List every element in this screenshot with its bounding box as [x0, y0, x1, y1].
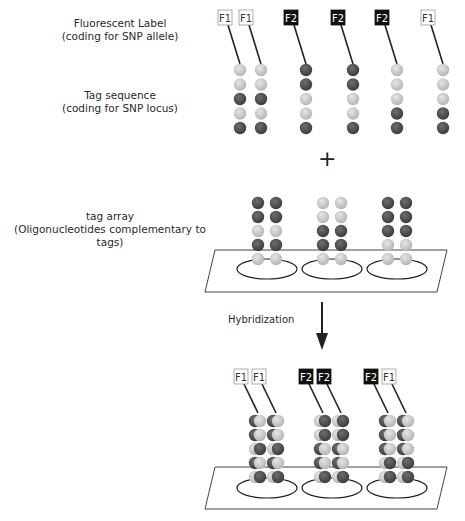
fluor-label-f2: F2	[317, 369, 331, 384]
dark-bead	[382, 197, 394, 209]
light-bead	[254, 457, 266, 469]
probe-strand: F2	[284, 10, 312, 134]
light-bead	[384, 415, 396, 427]
dark-bead	[300, 122, 312, 134]
dark-bead	[437, 122, 449, 134]
light-bead	[254, 429, 266, 441]
dark-bead	[335, 239, 347, 251]
hybridized-spot-group: F1F1	[234, 369, 297, 498]
dark-bead	[317, 239, 329, 251]
dark-bead	[254, 471, 266, 483]
light-bead	[337, 443, 349, 455]
dark-bead	[400, 197, 412, 209]
light-bead	[335, 211, 347, 223]
light-bead	[382, 253, 394, 265]
hybridized-spot-group: F2F2	[299, 369, 362, 498]
svg-text:F1: F1	[240, 13, 252, 24]
dark-bead	[255, 122, 267, 134]
dark-bead	[254, 443, 266, 455]
fluor-label-f1: F1	[234, 369, 248, 384]
dark-bead	[319, 429, 331, 441]
light-bead	[347, 107, 359, 119]
hybridized-array-slide: F1F1F2F2F2F1	[205, 369, 447, 509]
svg-text:F1: F1	[253, 372, 265, 383]
dark-bead	[234, 93, 246, 105]
light-bead	[234, 64, 246, 76]
svg-text:F2: F2	[300, 372, 312, 383]
array-spot	[367, 478, 427, 498]
dark-bead	[347, 78, 359, 90]
array-spot	[237, 478, 297, 498]
dark-bead	[391, 107, 403, 119]
dark-bead	[270, 239, 282, 251]
fluor-label-f1: F1	[421, 10, 435, 25]
light-bead	[402, 443, 414, 455]
dark-bead	[347, 64, 359, 76]
fluor-label-f1: F1	[239, 10, 253, 25]
light-bead	[252, 225, 264, 237]
light-bead	[270, 253, 282, 265]
dark-bead	[402, 471, 414, 483]
light-bead	[384, 443, 396, 455]
hybridization-arrow-icon	[316, 302, 328, 350]
dark-bead	[391, 122, 403, 134]
light-bead	[437, 93, 449, 105]
dark-bead	[300, 64, 312, 76]
array-spot	[302, 259, 362, 279]
light-bead	[400, 253, 412, 265]
probe-strand: F2	[375, 10, 403, 134]
light-bead	[402, 415, 414, 427]
dark-bead	[272, 471, 284, 483]
fluor-label-f2: F2	[375, 10, 389, 25]
dark-bead	[347, 122, 359, 134]
probe-strand: F2	[331, 10, 359, 134]
dark-bead	[319, 415, 331, 427]
svg-text:F2: F2	[376, 13, 388, 24]
light-bead	[391, 93, 403, 105]
light-bead	[317, 253, 329, 265]
light-bead	[272, 429, 284, 441]
light-bead	[337, 457, 349, 469]
light-bead	[347, 93, 359, 105]
dark-bead	[335, 225, 347, 237]
dark-bead	[252, 211, 264, 223]
array-spot	[302, 478, 362, 498]
light-bead	[317, 211, 329, 223]
light-bead	[255, 78, 267, 90]
array-spot	[237, 259, 297, 279]
light-bead	[317, 197, 329, 209]
dark-bead	[384, 471, 396, 483]
array-spot-group	[237, 197, 297, 279]
dark-bead	[270, 197, 282, 209]
dark-bead	[400, 211, 412, 223]
dark-bead	[252, 239, 264, 251]
array-spot-group	[302, 197, 362, 279]
array-spot	[367, 259, 427, 279]
probe-strand: F1	[421, 10, 449, 134]
light-bead	[270, 225, 282, 237]
light-bead	[319, 457, 331, 469]
light-bead	[391, 78, 403, 90]
light-bead	[391, 64, 403, 76]
dark-bead	[437, 107, 449, 119]
hybridized-spot-group: F2F1	[364, 369, 427, 498]
svg-text:F2: F2	[365, 372, 377, 383]
snp-tag-array-diagram: F1F1F2F2F2F1 F1F1F2F2F2F1	[0, 0, 465, 521]
tag-array-slide	[205, 197, 447, 292]
dark-bead	[319, 471, 331, 483]
light-bead	[400, 239, 412, 251]
svg-text:F1: F1	[219, 13, 231, 24]
dark-bead	[255, 93, 267, 105]
svg-text:F2: F2	[285, 13, 297, 24]
svg-text:F2: F2	[318, 372, 330, 383]
fluor-label-f2: F2	[284, 10, 298, 25]
light-bead	[255, 107, 267, 119]
light-bead	[252, 253, 264, 265]
fluor-label-f2: F2	[299, 369, 313, 384]
dark-bead	[402, 457, 414, 469]
dark-bead	[337, 471, 349, 483]
dark-bead	[400, 225, 412, 237]
light-bead	[384, 429, 396, 441]
light-bead	[382, 239, 394, 251]
dark-bead	[270, 211, 282, 223]
